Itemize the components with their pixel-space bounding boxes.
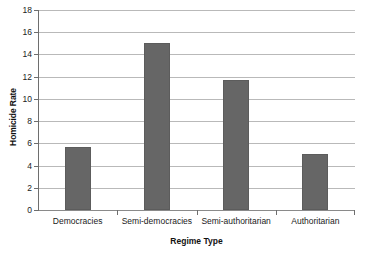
gridline [39, 10, 355, 11]
y-axis-tick-mark [34, 121, 39, 122]
y-axis-tick-label: 8 [27, 117, 32, 126]
y-axis-tick-label: 4 [27, 161, 32, 170]
x-axis-category-label: Semi-democracies [117, 217, 196, 226]
gridline [39, 99, 355, 100]
x-axis-category-label: Authoritarian [276, 217, 355, 226]
gridline [39, 54, 355, 55]
x-axis-end-tick [354, 210, 355, 215]
y-axis-tick-label: 12 [23, 72, 32, 81]
y-axis-tick-mark [34, 210, 39, 211]
y-axis-tick-label: 18 [23, 6, 32, 15]
gridline [39, 32, 355, 33]
bar [65, 147, 91, 210]
y-axis-tick-mark [34, 54, 39, 55]
x-axis-separator [117, 210, 118, 215]
bar [302, 154, 328, 210]
y-axis-tick-mark [34, 10, 39, 11]
y-axis-tick-mark [34, 77, 39, 78]
bar [223, 80, 249, 210]
bar-chart: Homicide Rate 024681012141618 Democracie… [0, 0, 369, 255]
y-axis-tick-mark [34, 32, 39, 33]
y-axis-tick-label: 16 [23, 28, 32, 37]
x-axis-separator [276, 210, 277, 215]
gridline [39, 121, 355, 122]
plot-area: 024681012141618 DemocraciesSemi-democrac… [38, 10, 355, 210]
y-axis-tick-mark [34, 188, 39, 189]
gridline [39, 143, 355, 144]
y-axis-tick-label: 2 [27, 184, 32, 193]
y-axis-title: Homicide Rate [8, 42, 18, 192]
x-axis-title: Regime Type [38, 236, 355, 246]
bar [144, 43, 170, 210]
x-axis-separator [197, 210, 198, 215]
y-axis-tick-mark [34, 166, 39, 167]
y-axis-tick-label: 0 [27, 206, 32, 215]
gridline [39, 77, 355, 78]
y-axis-tick-label: 10 [23, 95, 32, 104]
y-axis-tick-mark [34, 143, 39, 144]
y-axis-tick-mark [34, 99, 39, 100]
y-axis-tick-label: 14 [23, 50, 32, 59]
y-axis-line [38, 10, 39, 210]
y-axis-tick-label: 6 [27, 139, 32, 148]
x-axis-category-label: Semi-authoritarian [197, 217, 276, 226]
x-axis-category-label: Democracies [38, 217, 117, 226]
